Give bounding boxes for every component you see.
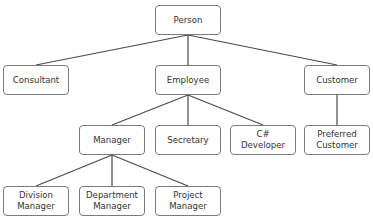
node-csharp-developer: C# Developer bbox=[230, 125, 296, 155]
edge-employee-csharp-developer bbox=[188, 95, 263, 125]
node-department-manager: Department Manager bbox=[79, 186, 145, 216]
node-division-manager: Division Manager bbox=[3, 186, 69, 216]
node-consultant: Consultant bbox=[3, 65, 69, 95]
node-person: Person bbox=[155, 5, 221, 35]
node-project-manager: Project Manager bbox=[155, 186, 221, 216]
edge-employee-manager bbox=[112, 95, 188, 125]
edge-manager-division-manager bbox=[36, 155, 112, 186]
node-manager: Manager bbox=[79, 125, 145, 155]
node-preferred-customer: Preferred Customer bbox=[304, 125, 370, 155]
edge-manager-project-manager bbox=[112, 155, 188, 186]
node-secretary: Secretary bbox=[155, 125, 221, 155]
node-employee: Employee bbox=[155, 65, 221, 95]
edge-person-customer bbox=[188, 35, 337, 65]
node-customer: Customer bbox=[304, 65, 370, 95]
edge-person-consultant bbox=[36, 35, 188, 65]
